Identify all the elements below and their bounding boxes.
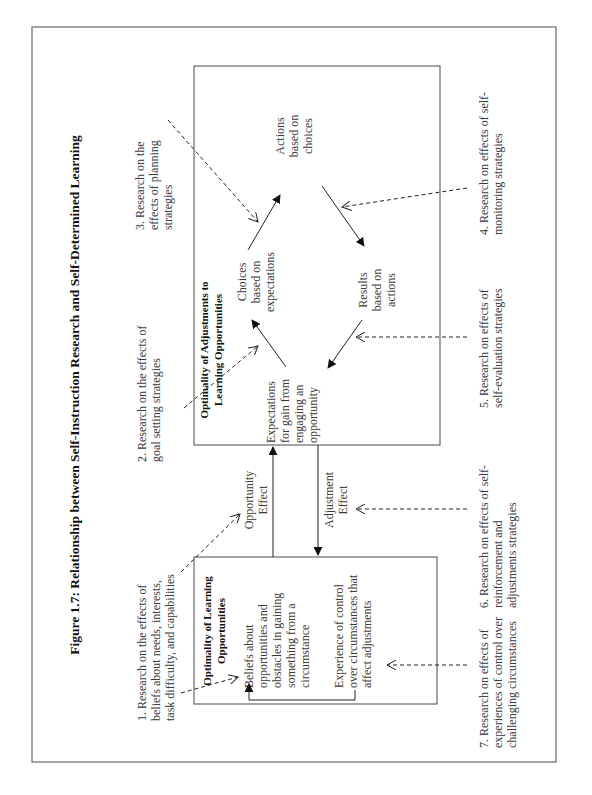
lower-box-title: Optimality of Learning Opportunities <box>201 576 227 686</box>
svg-text:Learning Opportunities: Learning Opportunities <box>212 293 224 406</box>
svg-text:Expectations: Expectations <box>264 381 278 443</box>
svg-text:experiences of control over: experiences of control over <box>491 617 505 748</box>
svg-text:Actions: Actions <box>273 117 287 155</box>
svg-text:based on: based on <box>249 261 263 303</box>
node-actions: Actions based on choices <box>273 115 315 157</box>
arrow-actions-to-results <box>322 186 364 246</box>
svg-text:monitoring strategies: monitoring strategies <box>491 133 505 235</box>
svg-text:based on: based on <box>370 269 384 311</box>
dashed-arrow-note-1-to-opportunity-effect <box>181 514 240 572</box>
svg-text:goal setting strategies: goal setting strategies <box>149 358 163 462</box>
svg-text:opportunity: opportunity <box>306 387 320 443</box>
svg-text:7. Research on effects of: 7. Research on effects of <box>477 629 491 748</box>
label-opportunity-effect: Opportunity Effect <box>242 471 270 530</box>
diagram-canvas: Figure 1.7: Relationship between Self-In… <box>0 0 592 795</box>
svg-text:Optimality of Adjustments to: Optimality of Adjustments to <box>198 281 210 419</box>
research-note-1: 1. Research on the effects of beliefs ab… <box>135 574 177 721</box>
svg-text:strategies: strategies <box>161 184 175 230</box>
arrow-results-to-expectations <box>328 320 362 368</box>
svg-text:Opportunities: Opportunities <box>215 597 227 664</box>
svg-text:Choices: Choices <box>235 262 249 301</box>
svg-text:Experience of control: Experience of control <box>332 583 346 688</box>
svg-text:affect adjustments: affect adjustments <box>360 600 374 688</box>
svg-text:Effect: Effect <box>336 485 350 515</box>
svg-text:effects of planning: effects of planning <box>147 140 161 230</box>
research-note-3: 3. Research on the effects of planning s… <box>133 140 175 230</box>
svg-text:over circumstances that: over circumstances that <box>346 574 360 688</box>
svg-text:opportunities and: opportunities and <box>256 604 270 688</box>
svg-text:Adjustment: Adjustment <box>322 471 336 528</box>
node-expectations: Expectations for gain from engaging an o… <box>264 378 320 443</box>
svg-text:adjustments strategies: adjustments strategies <box>505 502 519 608</box>
svg-text:2. Research on the effects of: 2. Research on the effects of <box>135 326 149 462</box>
svg-text:reinforcement and: reinforcement and <box>491 520 505 608</box>
dashed-arrow-note-4-to-actions <box>342 188 467 207</box>
svg-text:something from a: something from a <box>284 603 298 688</box>
svg-text:challenging circumstances: challenging circumstances <box>505 621 519 748</box>
svg-text:engaging an: engaging an <box>292 385 306 443</box>
node-choices: Choices based on expectations <box>235 252 277 312</box>
svg-text:Effect: Effect <box>256 485 270 515</box>
svg-text:task difficulty, and capabilit: task difficulty, and capabilities <box>163 574 177 721</box>
svg-text:4. Research on effects of self: 4. Research on effects of self- <box>477 92 491 235</box>
svg-text:self-evaluation strategies: self-evaluation strategies <box>491 288 505 408</box>
research-note-6: 6. Research on effects of self- reinforc… <box>477 465 519 608</box>
svg-text:choices: choices <box>301 118 315 154</box>
upper-box-title: Optimality of Adjustments to Learning Op… <box>198 281 224 419</box>
svg-text:for gain from: for gain from <box>278 378 292 443</box>
svg-text:3. Research on the: 3. Research on the <box>133 141 147 230</box>
svg-text:Opportunity: Opportunity <box>242 471 256 530</box>
svg-text:1. Research on the effects of: 1. Research on the effects of <box>135 585 149 721</box>
svg-text:Results: Results <box>356 272 370 308</box>
svg-text:beliefs about needs, interests: beliefs about needs, interests, <box>149 580 163 721</box>
research-note-7: 7. Research on effects of experiences of… <box>477 617 519 748</box>
svg-text:based on: based on <box>287 115 301 157</box>
arrow-expectations-to-choices <box>252 320 286 367</box>
node-experience: Experience of control over circumstances… <box>332 574 374 688</box>
svg-text:Beliefs about: Beliefs about <box>242 624 256 688</box>
lower-box <box>194 557 437 704</box>
svg-text:obstacles in gaining: obstacles in gaining <box>270 593 284 688</box>
svg-text:5. Research on effects of: 5. Research on effects of <box>477 289 491 408</box>
research-note-4: 4. Research on effects of self- monitori… <box>477 92 505 235</box>
node-beliefs: Beliefs about opportunities and obstacle… <box>242 593 312 688</box>
research-note-5: 5. Research on effects of self-evaluatio… <box>477 288 505 408</box>
research-note-2: 2. Research on the effects of goal setti… <box>135 326 163 462</box>
svg-text:circumstance: circumstance <box>298 625 312 688</box>
figure-title: Figure 1.7: Relationship between Self-In… <box>67 135 82 655</box>
dashed-arrow-note-3-to-choices <box>168 120 258 222</box>
node-results: Results based on actions <box>356 269 398 311</box>
svg-text:expectations: expectations <box>263 252 277 312</box>
arrow-choices-to-actions <box>248 195 280 250</box>
svg-text:actions: actions <box>384 273 398 307</box>
label-adjustment-effect: Adjustment Effect <box>322 471 350 528</box>
svg-text:Optimality of Learning: Optimality of Learning <box>201 576 213 686</box>
svg-text:6. Research on effects of self: 6. Research on effects of self- <box>477 465 491 608</box>
